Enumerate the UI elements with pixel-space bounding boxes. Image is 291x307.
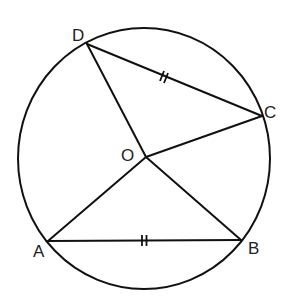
label-o: O (121, 146, 134, 165)
segment-oc (146, 116, 262, 157)
label-b: B (248, 239, 259, 258)
segment-ob (146, 157, 241, 240)
label-a: A (33, 242, 45, 261)
segment-oa (48, 157, 146, 241)
label-c: C (264, 103, 276, 122)
equal-mark-dc (160, 71, 168, 83)
segment-dc (87, 44, 262, 116)
segment-ab (48, 240, 241, 241)
label-d: D (72, 26, 84, 45)
segment-od (87, 44, 146, 157)
circle-diagram: D C O A B (0, 0, 291, 307)
